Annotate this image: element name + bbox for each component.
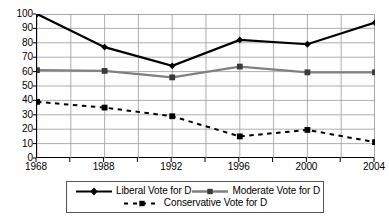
data-point-marker: [372, 69, 375, 75]
plot-svg: [37, 14, 375, 158]
x-axis-tick-label: 1968: [14, 161, 58, 172]
data-point-marker: [372, 19, 375, 26]
data-point-marker: [37, 67, 40, 73]
line-chart: 0102030405060708090100 19681988199219962…: [0, 0, 389, 223]
data-point-marker: [305, 69, 311, 75]
y-axis-tick-label: 10: [3, 139, 33, 149]
y-axis-tick-labels: 0102030405060708090100: [0, 14, 33, 158]
y-axis-tick-label: 80: [3, 38, 33, 48]
x-axis-tick-label: 2004: [352, 161, 389, 172]
legend-swatch-liberal: [75, 186, 113, 197]
y-axis-tick-label: 40: [3, 95, 33, 105]
data-point-marker: [102, 105, 108, 111]
x-axis-tick-labels: 196819881992199620002004: [36, 161, 374, 175]
y-axis-tick-label: 30: [3, 110, 33, 120]
data-point-marker: [305, 127, 311, 133]
legend-item-conservative: Conservative Vote for D: [123, 197, 267, 209]
y-axis-tick-label: 70: [3, 52, 33, 62]
y-axis-tick-label: 50: [3, 81, 33, 91]
legend-row-secondary: Conservative Vote for D: [71, 197, 319, 209]
data-point-marker: [372, 139, 375, 145]
x-axis-tick-label: 2000: [284, 161, 328, 172]
data-point-marker: [304, 41, 311, 48]
chart-legend: Liberal Vote for D Moderate Vote for D C…: [66, 181, 324, 213]
data-point-marker: [236, 37, 243, 44]
data-point-marker: [237, 64, 243, 70]
legend-swatch-conservative: [123, 198, 161, 209]
x-axis-tick-label: 1992: [149, 161, 193, 172]
x-axis-tick-label: 1988: [82, 161, 126, 172]
y-axis-tick-label: 60: [3, 67, 33, 77]
data-point-marker: [37, 99, 40, 105]
data-point-marker: [169, 62, 176, 69]
legend-label-moderate: Moderate Vote for D: [229, 185, 320, 197]
data-point-marker: [169, 113, 175, 119]
data-point-marker: [102, 68, 108, 74]
plot-area: [36, 14, 374, 158]
y-axis-tick-label: 100: [3, 9, 33, 19]
legend-label-liberal: Liberal Vote for D: [113, 185, 191, 197]
legend-item-moderate: Moderate Vote for D: [191, 185, 320, 197]
legend-row-primary: Liberal Vote for D Moderate Vote for D: [71, 185, 319, 197]
legend-item-liberal: Liberal Vote for D: [75, 185, 191, 197]
y-axis-tick-label: 90: [3, 23, 33, 33]
y-axis-tick-label: 20: [3, 124, 33, 134]
data-point-marker: [169, 74, 175, 80]
legend-swatch-moderate: [191, 186, 229, 197]
legend-label-conservative: Conservative Vote for D: [161, 197, 267, 209]
data-point-marker: [237, 134, 243, 140]
x-axis-tick-label: 1996: [217, 161, 261, 172]
